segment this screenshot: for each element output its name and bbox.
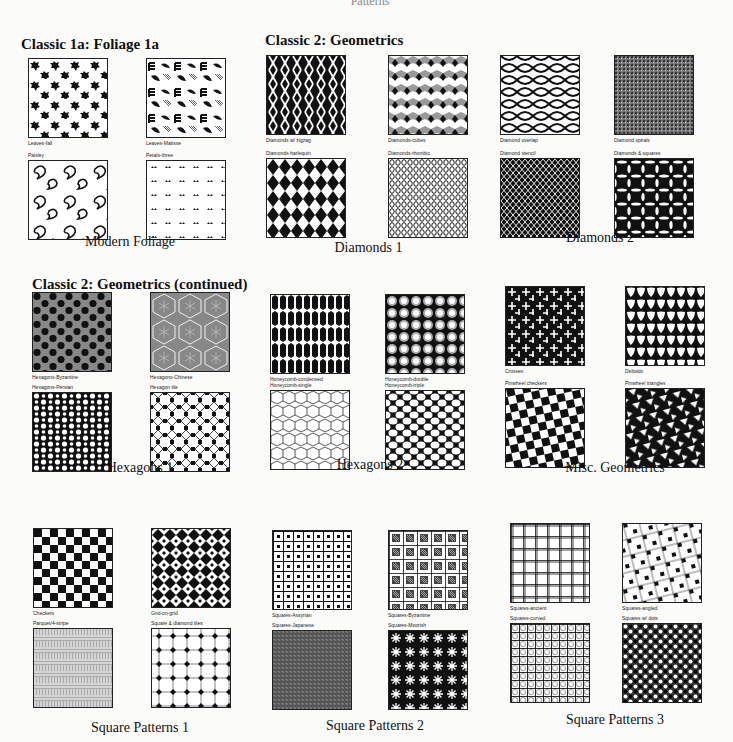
pattern-label: Squares w/ dots — [622, 615, 658, 621]
pattern-label: Diamond overlap — [500, 137, 538, 143]
pattern-swatch-overlap — [500, 55, 580, 135]
pattern-swatch-paisley — [28, 160, 108, 240]
pattern-swatch-double — [385, 294, 465, 374]
pattern-swatch-petals — [146, 160, 226, 240]
pattern-label: Paisley — [28, 152, 44, 158]
pattern-swatch-sqdiamond — [151, 628, 231, 708]
pattern-swatch-diamondsq — [614, 158, 694, 238]
pattern-label: Deltoids — [625, 368, 643, 374]
group-caption: Square Patterns 3 — [505, 712, 725, 728]
pattern-swatch-matisse — [146, 58, 226, 138]
group-caption: Modern Foliage — [45, 234, 215, 250]
pattern-label: Squares-Assyrian — [272, 612, 311, 618]
pattern-label: Hexagons-Chinese — [150, 374, 193, 380]
pattern-label: Diamonds-harlequin — [266, 150, 311, 156]
pattern-swatch-japanese — [272, 630, 352, 710]
pattern-swatch-dots — [622, 623, 702, 703]
pattern-swatch-rhombic — [388, 158, 468, 238]
pattern-label: Diamonds-cubes — [388, 137, 426, 143]
pattern-swatch-deltoids — [625, 286, 705, 366]
section-title-classic2-continued: Classic 2: Geometrics (continued) — [32, 276, 247, 293]
pattern-swatch-sqbyz — [388, 530, 468, 610]
pattern-label: Honeycomb-single — [270, 382, 311, 388]
pattern-swatch-gridongrid — [151, 528, 231, 608]
pattern-label: Squares-ancient — [510, 605, 546, 611]
pattern-swatch-pinwheel — [505, 388, 585, 468]
pattern-swatch-cubes — [388, 55, 468, 135]
group-caption: Diamonds 1 — [266, 240, 471, 256]
pattern-label: Squares-angled — [622, 605, 657, 611]
group-caption: Square Patterns 1 — [40, 720, 240, 736]
pattern-label: Crosses — [505, 368, 523, 374]
pattern-swatch-spirals — [614, 55, 694, 135]
pattern-label: Parquet/4-stripe — [33, 620, 69, 626]
page-top-fragment: Patterns — [170, 0, 570, 6]
group-caption: Square Patterns 2 — [270, 718, 480, 734]
pattern-swatch-crosses — [505, 286, 585, 366]
pattern-swatch-harlequin — [266, 158, 346, 238]
pattern-label: Squares-Byzantine — [388, 612, 430, 618]
pattern-label: Pinwheel checkers — [505, 380, 547, 386]
pattern-label: Hexagon tile — [150, 384, 178, 390]
pattern-swatch-chinese — [150, 292, 230, 372]
section-title-classic2: Classic 2: Geometrics — [265, 32, 403, 49]
pattern-swatch-ancient — [510, 523, 590, 603]
pattern-label: Squares-Moorish — [388, 622, 426, 628]
pattern-label: Diamonds w/ zigzag — [266, 137, 311, 143]
pattern-swatch-moorish — [388, 630, 468, 710]
pattern-label: Checkers — [33, 610, 54, 616]
pattern-swatch-parquet — [33, 628, 113, 708]
pattern-label: Diamonds-rhombic — [388, 150, 430, 156]
pattern-label: Honeycomb-triple — [385, 382, 424, 388]
pattern-label: Squares-Japanese — [272, 622, 314, 628]
section-title-classic1a: Classic 1a: Foliage 1a — [21, 36, 159, 53]
pattern-label: Pinwheel triangles — [625, 380, 666, 386]
pattern-label: Diamonds & squares — [614, 150, 660, 156]
group-caption: Misc. Geometrics — [505, 460, 725, 476]
pattern-swatch-leaves — [28, 58, 108, 138]
pattern-swatch-condensed — [270, 294, 350, 374]
pattern-label: Hexagons-Persian — [32, 384, 73, 390]
pattern-swatch-curved — [510, 623, 590, 703]
pattern-label: Grid-on-grid — [151, 610, 178, 616]
pattern-swatch-angled — [622, 523, 702, 603]
pattern-label: Squares-curved — [510, 615, 545, 621]
pattern-swatch-assyrian — [272, 530, 352, 610]
pattern-swatch-zigzag — [266, 55, 346, 135]
group-caption: Hexagons 2 — [270, 457, 470, 473]
pattern-label: Diamond stencil — [500, 150, 536, 156]
pattern-swatch-byzantine — [32, 292, 112, 372]
pattern-label: Petals-three — [146, 152, 173, 158]
pattern-swatch-stencil — [500, 158, 580, 238]
pattern-swatch-pintri — [625, 388, 705, 468]
pattern-label: Square & diamond tiles — [151, 620, 203, 626]
pattern-swatch-checkers — [33, 528, 113, 608]
pattern-label: Leaves-Matisse — [146, 140, 181, 146]
pattern-label: Leaves-fall — [28, 140, 52, 146]
pattern-label: Diamond spirals — [614, 137, 650, 143]
group-caption: Hexagons 1 — [40, 460, 240, 476]
pattern-label: Hexagons-Byzantine — [32, 374, 78, 380]
group-caption: Diamonds 2 — [500, 230, 700, 246]
